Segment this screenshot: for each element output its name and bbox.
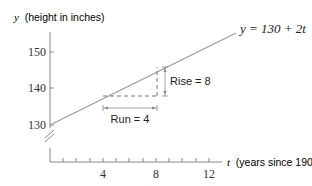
y-ticks (50, 52, 54, 125)
y-tick-label-150: 150 (28, 45, 46, 59)
run-arrow-icon (103, 105, 157, 111)
x-axis-label: t (years since 1900) (227, 156, 312, 168)
rise-arrow-icon (162, 67, 168, 96)
y-tick-label-140: 140 (28, 81, 46, 95)
chart: y (height in inches) 150 140 130 4 8 12 … (0, 0, 312, 186)
axis-break-icon (45, 130, 54, 142)
x-ticks (63, 158, 209, 162)
y-tick-label-130: 130 (28, 118, 46, 132)
x-tick-label-12: 12 (203, 167, 215, 181)
run-label: Run = 4 (111, 113, 150, 125)
x-tick-label-8: 8 (153, 167, 159, 181)
x-tick-label-4: 4 (100, 167, 106, 181)
rise-label: Rise = 8 (170, 75, 211, 87)
equation-label: y = 130 + 2t (238, 21, 306, 36)
y-axis-label: y (height in inches) (13, 11, 105, 23)
